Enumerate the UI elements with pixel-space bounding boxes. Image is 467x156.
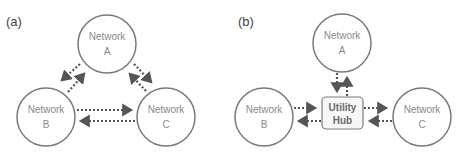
svg-text:A: A xyxy=(339,45,346,56)
svg-text:Hub: Hub xyxy=(333,115,352,126)
arrow-c-to-a xyxy=(130,74,146,91)
svg-text:A: A xyxy=(104,46,111,57)
node-network-c: Network C xyxy=(393,88,451,146)
svg-text:Network: Network xyxy=(89,31,127,42)
svg-text:Network: Network xyxy=(404,104,442,115)
node-network-a: Network A xyxy=(313,14,371,72)
svg-text:C: C xyxy=(162,119,169,130)
svg-text:Network: Network xyxy=(28,104,66,115)
arrow-a-to-b xyxy=(62,64,80,80)
node-network-a: Network A xyxy=(78,15,136,73)
diagram-canvas: (a) Network A Network B Network C xyxy=(0,0,467,156)
node-network-b: Network B xyxy=(235,88,293,146)
utility-hub: Utility Hub xyxy=(322,97,363,129)
node-network-b: Network B xyxy=(17,88,75,146)
node-network-c: Network C xyxy=(137,88,195,146)
panel-label-b: (b) xyxy=(238,14,254,29)
panel-label-a: (a) xyxy=(6,14,22,29)
svg-text:Utility: Utility xyxy=(329,102,357,113)
svg-text:Network: Network xyxy=(246,104,284,115)
svg-text:B: B xyxy=(43,119,50,130)
panel-b: (b) Network A Network B Network C Utilit… xyxy=(235,14,451,146)
svg-text:B: B xyxy=(261,119,268,130)
arrow-b-to-a xyxy=(68,74,84,92)
svg-text:Network: Network xyxy=(148,104,186,115)
panel-a: (a) Network A Network B Network C xyxy=(6,14,195,146)
svg-text:C: C xyxy=(418,119,425,130)
svg-text:Network: Network xyxy=(324,30,362,41)
arrow-a-to-c xyxy=(134,64,151,82)
